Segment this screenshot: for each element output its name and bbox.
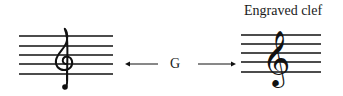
- treble-clef-engraved-icon: 𝄞: [262, 29, 290, 88]
- center-label-g: G: [170, 57, 180, 71]
- arrow-left-icon: [125, 62, 158, 67]
- caption-engraved-clef: Engraved clef: [244, 4, 322, 18]
- arrow-right-icon: [198, 62, 236, 67]
- treble-clef-handwritten-icon: [56, 29, 72, 89]
